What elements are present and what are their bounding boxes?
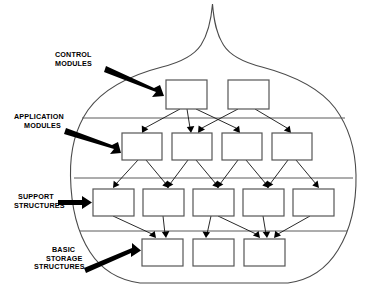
application-box-2[interactable] xyxy=(172,133,212,160)
support-box-2[interactable] xyxy=(143,189,184,216)
layer-support-structures xyxy=(93,189,334,216)
diagram-canvas: CONTROL MODULES APPLICATION MODULES SUPP… xyxy=(0,0,369,295)
application-box-4[interactable] xyxy=(272,133,312,160)
application-box-3[interactable] xyxy=(222,133,262,160)
support-box-1[interactable] xyxy=(93,189,134,216)
callout-line: STRUCTURES xyxy=(14,201,65,210)
callout-label-support-structures: SUPPORT STRUCTURES xyxy=(14,192,65,210)
support-box-4[interactable] xyxy=(243,189,284,216)
support-box-3[interactable] xyxy=(193,189,234,216)
callout-label-application-modules: APPLICATION MODULES xyxy=(14,112,66,130)
callout-line: MODULES xyxy=(55,59,92,68)
storage-box-1[interactable] xyxy=(142,239,183,266)
support-box-5[interactable] xyxy=(293,189,334,216)
layer-basic-storage-structures xyxy=(142,239,285,266)
callout-label-control-modules: CONTROL MODULES xyxy=(55,50,94,68)
storage-box-3[interactable] xyxy=(244,239,285,266)
application-box-1[interactable] xyxy=(122,133,162,160)
control-box-1[interactable] xyxy=(166,80,207,109)
storage-box-2[interactable] xyxy=(193,239,234,266)
callout-label-basic-storage-structures: BASIC STORAGE STRUCTURES xyxy=(34,245,85,271)
callout-line: MODULES xyxy=(24,121,61,130)
control-box-2[interactable] xyxy=(228,80,269,109)
architecture-diagram: CONTROL MODULES APPLICATION MODULES SUPP… xyxy=(0,0,369,295)
callout-line: STRUCTURES xyxy=(34,262,85,271)
